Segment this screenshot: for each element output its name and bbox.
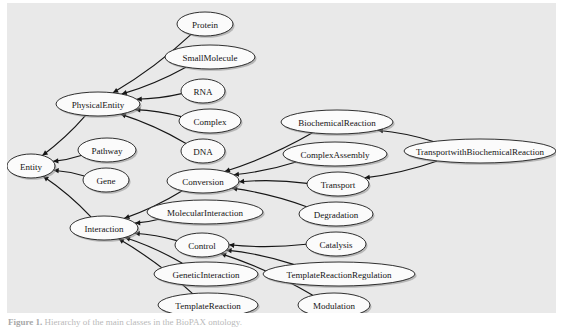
graph-edge	[378, 130, 434, 141]
graph-edge	[135, 110, 181, 117]
node-label: ComplexAssembly	[301, 150, 370, 160]
node-label: DNA	[193, 147, 213, 157]
graph-node-gene[interactable]: Gene	[83, 168, 131, 194]
graph-node-modulation[interactable]: Modulation	[298, 293, 372, 313]
node-label: TransportwithBiochemicalReaction	[416, 147, 545, 157]
graph-edge	[121, 114, 186, 143]
node-label: TemplateReaction	[175, 301, 241, 311]
node-label: Entity	[20, 162, 42, 172]
caption-text: Hierarchy of the main classes in the Bio…	[45, 317, 242, 327]
graph-node-molecularinteraction[interactable]: MolecularInteraction	[147, 200, 265, 226]
edges-layer	[42, 34, 437, 295]
node-label: MolecularInteraction	[167, 208, 243, 218]
graph-node-protein[interactable]: Protein	[177, 12, 235, 38]
node-label: GeneticInteraction	[173, 270, 240, 280]
graph-node-catalysis[interactable]: Catalysis	[306, 232, 368, 258]
node-label: Degradation	[314, 210, 359, 220]
node-label: BiochemicalReaction	[298, 118, 376, 128]
graph-node-physicalentity[interactable]: PhysicalEntity	[56, 92, 142, 118]
node-label: Complex	[194, 117, 227, 127]
graph-edge	[234, 162, 296, 175]
class-hierarchy-graph: EntityPhysicalEntityPathwayGeneInteracti…	[7, 3, 556, 313]
graph-edge	[135, 233, 177, 240]
graph-edge	[239, 181, 307, 184]
graph-edge	[122, 67, 186, 94]
node-label: Catalysis	[320, 240, 353, 250]
figure-container: EntityPhysicalEntityPathwayGeneInteracti…	[0, 0, 563, 329]
graph-node-entity[interactable]: Entity	[7, 154, 57, 180]
graph-node-complexassembly[interactable]: ComplexAssembly	[283, 142, 389, 168]
graph-node-smallmolecule[interactable]: SmallMolecule	[165, 45, 257, 71]
node-label: Interaction	[85, 224, 124, 234]
graph-edge	[229, 244, 306, 246]
figure-caption: Figure 1. Hierarchy of the main classes …	[8, 316, 556, 329]
graph-node-degradation[interactable]: Degradation	[299, 202, 375, 228]
node-label: SmallMolecule	[183, 53, 238, 63]
graph-node-transportwithbiochemicalreaction[interactable]: TransportwithBiochemicalReaction	[404, 139, 556, 165]
graph-node-dna[interactable]: DNA	[181, 139, 227, 165]
graph-node-rna[interactable]: RNA	[181, 79, 227, 105]
node-label: Modulation	[313, 301, 355, 311]
graph-node-transport[interactable]: Transport	[307, 172, 371, 198]
graph-node-control[interactable]: Control	[175, 233, 231, 259]
graph-node-conversion[interactable]: Conversion	[167, 169, 241, 195]
node-label: Protein	[192, 20, 218, 30]
node-label: TemplateReactionRegulation	[287, 270, 392, 280]
graph-node-interaction[interactable]: Interaction	[70, 216, 140, 242]
node-label: Transport	[321, 180, 356, 190]
node-label: Conversion	[182, 177, 224, 187]
node-label: Pathway	[92, 146, 123, 156]
node-label: PhysicalEntity	[72, 100, 125, 110]
caption-label: Figure 1.	[8, 317, 42, 327]
graph-node-templatereactionregulation[interactable]: TemplateReactionRegulation	[263, 262, 417, 288]
graph-node-templatereaction[interactable]: TemplateReaction	[158, 293, 260, 313]
graph-node-complex[interactable]: Complex	[179, 109, 243, 135]
graph-edge	[226, 250, 293, 264]
node-label: Gene	[97, 176, 116, 186]
graph-edge	[125, 237, 182, 263]
graph-panel: EntityPhysicalEntityPathwayGeneInteracti…	[7, 3, 556, 313]
node-label: RNA	[193, 87, 213, 97]
node-label: Control	[188, 241, 216, 251]
graph-node-pathway[interactable]: Pathway	[78, 138, 138, 164]
graph-edge	[137, 94, 182, 100]
graph-node-geneticinteraction[interactable]: GeneticInteraction	[154, 262, 260, 288]
graph-node-biochemicalreaction[interactable]: BiochemicalReaction	[281, 110, 395, 136]
nodes-layer: EntityPhysicalEntityPathwayGeneInteracti…	[7, 12, 556, 313]
